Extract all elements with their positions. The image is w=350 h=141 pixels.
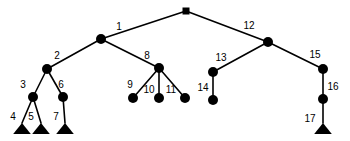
tree-node-labels: 1234567891011121314151617 <box>10 20 339 124</box>
tree-node-dot <box>128 93 138 103</box>
tree-node-label-10: 10 <box>143 84 155 95</box>
tree-edge <box>101 39 159 68</box>
tree-root-node <box>183 8 190 15</box>
tree-node-dot <box>263 37 273 47</box>
tree-diagram-figure: 1234567891011121314151617 <box>0 0 350 141</box>
tree-node-label-7: 7 <box>53 111 59 122</box>
tree-node-label-11: 11 <box>166 84 177 95</box>
tree-node-label-13: 13 <box>215 52 227 63</box>
tree-diagram-canvas: 1234567891011121314151617 <box>0 0 350 141</box>
tree-node-label-16: 16 <box>327 81 339 92</box>
tree-node-label-1: 1 <box>116 21 122 32</box>
tree-node-label-9: 9 <box>127 79 133 90</box>
tree-node-dot <box>42 64 52 74</box>
tree-node-label-17: 17 <box>304 113 316 124</box>
tree-subtree-triangle <box>13 123 31 134</box>
tree-node-dot <box>318 64 328 74</box>
tree-node-label-3: 3 <box>20 79 26 90</box>
tree-node-label-14: 14 <box>197 82 209 93</box>
tree-edges <box>22 11 323 123</box>
tree-node-dot <box>180 93 190 103</box>
tree-subtree-triangle <box>56 123 74 134</box>
tree-node-dot <box>96 34 106 44</box>
tree-node-dot <box>154 93 164 103</box>
tree-node-label-4: 4 <box>10 111 16 122</box>
tree-node-label-5: 5 <box>28 111 34 122</box>
tree-node-label-15: 15 <box>309 49 321 60</box>
tree-node-label-6: 6 <box>58 79 64 90</box>
tree-edge <box>101 11 186 39</box>
tree-node-dot <box>58 92 68 102</box>
tree-node-label-8: 8 <box>144 50 150 61</box>
tree-node-dot <box>318 94 328 104</box>
tree-subtree-triangle <box>32 123 50 134</box>
tree-node-dot <box>208 67 218 77</box>
tree-subtree-triangle <box>314 123 332 134</box>
tree-edge <box>186 11 268 42</box>
tree-node-label-2: 2 <box>54 50 60 61</box>
tree-node-label-12: 12 <box>243 20 255 31</box>
tree-node-dot <box>28 92 38 102</box>
tree-node-dot <box>154 63 164 73</box>
tree-nodes <box>13 8 332 135</box>
tree-node-dot <box>208 95 218 105</box>
